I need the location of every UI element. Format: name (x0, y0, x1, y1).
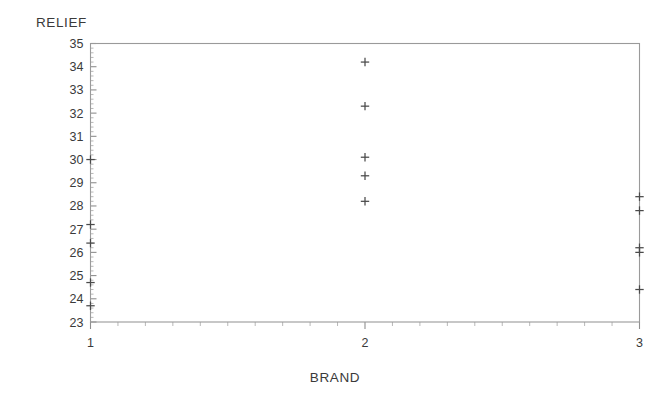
y-axis-title: RELIEF (36, 15, 87, 30)
y-tick-label: 31 (70, 130, 84, 144)
y-tick-label: 29 (70, 176, 84, 190)
data-point (86, 155, 94, 163)
x-axis-title: BRAND (310, 370, 360, 385)
data-point (635, 285, 643, 293)
y-tick-label: 34 (70, 60, 84, 74)
y-tick-label: 27 (70, 223, 84, 237)
data-points-layer (86, 58, 643, 310)
data-point (635, 248, 643, 256)
y-tick-label: 25 (70, 269, 84, 283)
y-tick-label: 33 (70, 83, 84, 97)
data-point (86, 220, 94, 228)
y-tick-label: 26 (70, 246, 84, 260)
data-point (361, 172, 369, 180)
x-tick-label: 2 (362, 336, 369, 350)
data-point (361, 102, 369, 110)
y-tick-label: 23 (70, 316, 84, 330)
scatter-plot-figure: RELIEF BRAND 23242526272829303132333435 … (0, 0, 670, 403)
x-axis-ticks: 123 (87, 322, 643, 350)
data-point (86, 278, 94, 286)
y-axis-ticks: 23242526272829303132333435 (70, 37, 97, 330)
data-point (361, 197, 369, 205)
y-tick-label: 32 (70, 107, 84, 121)
data-point (86, 239, 94, 247)
plot-canvas: RELIEF BRAND 23242526272829303132333435 … (0, 0, 670, 403)
data-point (635, 206, 643, 214)
plot-frame (91, 44, 640, 323)
y-tick-label: 24 (70, 292, 84, 306)
data-point (361, 153, 369, 161)
x-tick-label: 3 (636, 336, 643, 350)
y-tick-label: 28 (70, 199, 84, 213)
y-tick-label: 30 (70, 153, 84, 167)
data-point (361, 58, 369, 66)
x-tick-label: 1 (87, 336, 94, 350)
data-point (635, 192, 643, 200)
data-point (86, 302, 94, 310)
y-tick-label: 35 (70, 37, 84, 51)
